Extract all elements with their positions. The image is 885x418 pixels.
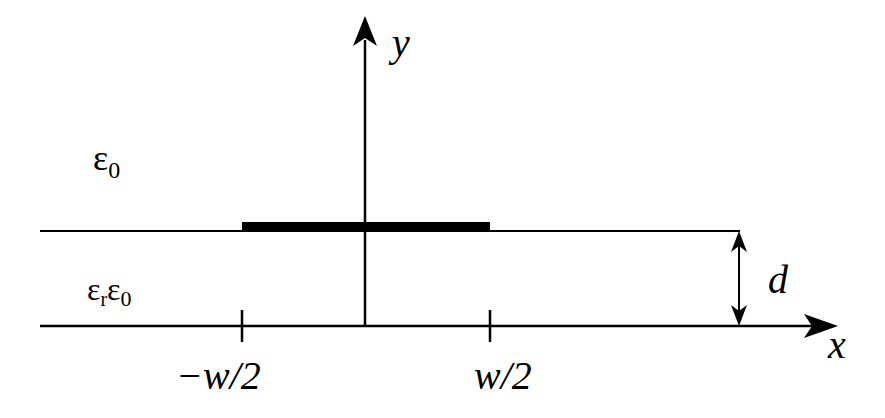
- subscript-zero: 0: [108, 157, 120, 183]
- epsilon-symbol-0: ε: [107, 271, 120, 307]
- upper-permittivity-label: ε0: [93, 138, 120, 183]
- tick-label-minus-w-half: −w/2: [176, 353, 261, 398]
- tick-label-w-half: w/2: [474, 353, 532, 398]
- y-axis-label: y: [388, 20, 410, 65]
- epsilon-symbol-r: ε: [87, 271, 100, 307]
- lower-permittivity-label: εrε0: [87, 271, 132, 311]
- epsilon-symbol: ε: [93, 138, 108, 178]
- dimension-label-d: d: [768, 257, 789, 302]
- microstrip-diagram: y x d ε0 εrε0 −w/2 w/2: [0, 0, 885, 418]
- subscript-zero-lower: 0: [121, 286, 132, 311]
- x-axis-label: x: [827, 322, 846, 367]
